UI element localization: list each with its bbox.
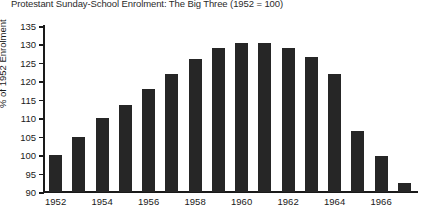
y-tick-label: 95 xyxy=(25,168,36,179)
y-tick-label: 115 xyxy=(21,94,36,105)
bar xyxy=(305,57,318,192)
bar xyxy=(398,183,411,192)
y-tick-label: 125 xyxy=(20,57,36,68)
bar xyxy=(119,105,132,192)
bar xyxy=(235,43,248,192)
bar xyxy=(72,137,85,192)
x-tick-label: 1952 xyxy=(45,196,66,207)
x-tick-label: 1966 xyxy=(371,196,392,207)
y-tick-mark xyxy=(39,26,44,28)
y-tick-label: 100 xyxy=(20,150,36,161)
bar xyxy=(142,89,155,192)
y-tick-label: 110 xyxy=(21,113,36,124)
x-tick-label: 1962 xyxy=(278,196,299,207)
bar xyxy=(189,59,202,192)
x-tick-label: 1958 xyxy=(185,196,206,207)
bar xyxy=(328,74,341,192)
bar xyxy=(96,118,109,192)
y-tick-label: 120 xyxy=(20,76,36,87)
bar xyxy=(212,48,225,192)
chart-title: Protestant Sunday-School Enrolment: The … xyxy=(11,0,283,10)
bar xyxy=(258,43,271,192)
bar xyxy=(282,48,295,192)
y-tick-mark xyxy=(39,192,44,194)
y-tick-label: 105 xyxy=(20,131,36,142)
x-tick-label: 1960 xyxy=(231,196,252,207)
y-tick-label: 135 xyxy=(20,21,36,32)
x-tick-label: 1954 xyxy=(92,196,113,207)
y-tick-mark xyxy=(39,81,44,83)
bar-chart-figure: Protestant Sunday-School Enrolment: The … xyxy=(0,0,421,218)
y-tick-mark xyxy=(39,137,44,139)
bar xyxy=(165,74,178,192)
y-tick-label: 90 xyxy=(25,187,36,198)
y-tick-mark xyxy=(39,44,44,46)
bar xyxy=(351,131,364,192)
plot-area: 9095100105110115120125130135 xyxy=(44,26,416,192)
y-tick-mark xyxy=(39,118,44,120)
x-tick-label: 1964 xyxy=(324,196,345,207)
bar xyxy=(375,156,388,192)
y-tick-mark xyxy=(39,63,44,65)
y-tick-label: 130 xyxy=(20,39,36,50)
x-tick-label: 1956 xyxy=(138,196,159,207)
y-axis-title: % of 1952 Enrolment xyxy=(0,19,8,108)
y-tick-mark xyxy=(39,174,44,176)
bar xyxy=(49,155,62,192)
y-tick-mark xyxy=(39,155,44,157)
y-tick-mark xyxy=(39,100,44,102)
